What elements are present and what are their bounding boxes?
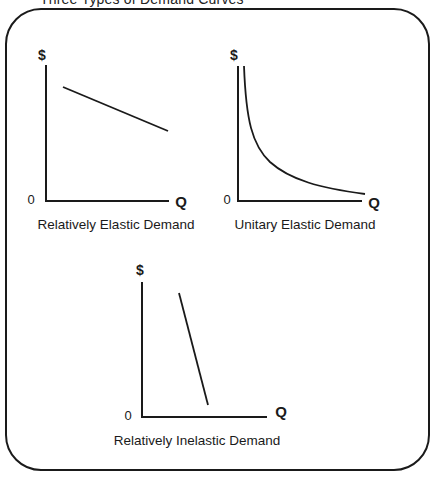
x-axis-label: Q xyxy=(175,193,187,210)
demand-curve xyxy=(244,66,365,194)
chart-caption: Relatively Elastic Demand xyxy=(38,217,195,232)
chart-caption: Relatively Inelastic Demand xyxy=(114,433,281,448)
y-axis-label: $ xyxy=(38,47,46,63)
y-axis-label: $ xyxy=(230,47,238,63)
x-axis-label: Q xyxy=(275,403,287,420)
axes xyxy=(238,66,362,201)
demand-curve xyxy=(63,87,168,131)
demand-diagrams: $ 0 Q Relatively Elastic Demand $ 0 Q Un… xyxy=(0,0,435,480)
chart-unitary-elastic: $ 0 Q Unitary Elastic Demand xyxy=(223,47,380,232)
y-axis-label: $ xyxy=(136,262,144,278)
chart-relatively-elastic: $ 0 Q Relatively Elastic Demand xyxy=(27,47,194,232)
origin-label: 0 xyxy=(223,192,230,207)
origin-label: 0 xyxy=(124,408,131,423)
chart-relatively-inelastic: $ 0 Q Relatively Inelastic Demand xyxy=(114,262,287,448)
x-axis-label: Q xyxy=(368,194,380,211)
origin-label: 0 xyxy=(27,192,34,207)
demand-curve xyxy=(179,293,208,405)
axes xyxy=(46,65,169,201)
axes xyxy=(142,282,267,417)
chart-caption: Unitary Elastic Demand xyxy=(234,217,375,232)
